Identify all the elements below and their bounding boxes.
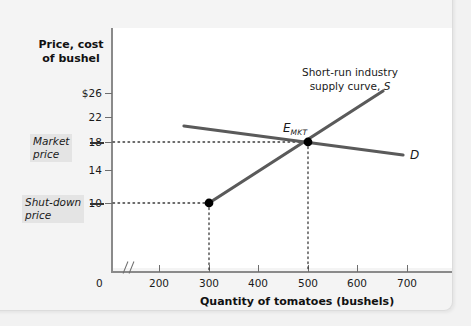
market-price-line1: Market: [33, 135, 69, 148]
market-price-annotation: Market price: [30, 134, 72, 162]
equilibrium-point: [304, 138, 313, 147]
figure-card: $26 22 18 14 10 200 300 400 500 600 700 …: [0, 0, 471, 326]
shutdown-point: [205, 199, 214, 208]
shutdown-price-annotation: Shut-down price: [22, 195, 84, 223]
y-axis-title-line2: of bushel: [34, 52, 108, 66]
supply-curve-symbol: S: [384, 80, 391, 92]
market-price-line2: price: [33, 148, 69, 161]
shutdown-price-leader-line: [90, 203, 104, 205]
supply-curve-label-line2: supply curve, S: [302, 80, 398, 94]
equilibrium-label: EMKT: [283, 121, 307, 137]
shutdown-price-line1: Shut-down: [25, 196, 81, 209]
x-axis-title: Quantity of tomatoes (bushels): [200, 295, 394, 308]
shutdown-price-line2: price: [25, 209, 81, 222]
supply-curve: [209, 91, 383, 203]
equilibrium-label-sub: MKT: [291, 128, 308, 137]
supply-curve-label: Short-run industry supply curve, S: [302, 66, 398, 93]
market-price-leader-line: [90, 142, 104, 144]
y-axis-title-line1: Price, cost: [34, 38, 108, 52]
equilibrium-label-main: E: [283, 121, 291, 135]
y-axis-title: Price, cost of bushel: [34, 38, 108, 66]
supply-curve-label-line1: Short-run industry: [302, 66, 398, 80]
demand-curve-label: D: [410, 148, 419, 162]
supply-curve-label-text: supply curve,: [310, 80, 381, 92]
